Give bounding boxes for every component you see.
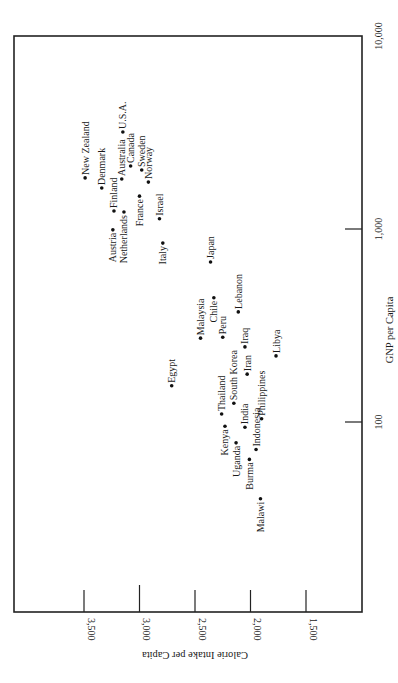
point-label: Uganda	[231, 445, 242, 477]
point-label: Austria	[107, 232, 118, 262]
point-marker	[111, 228, 115, 232]
point-marker	[170, 384, 174, 388]
data-point: Burma	[244, 458, 255, 490]
data-points: New ZealandDenmarkU.S.A.AustraliaCanadaS…	[80, 102, 282, 533]
point-marker	[236, 310, 240, 314]
data-point: Uganda	[231, 441, 242, 477]
gnp-axis-ticks: 1001,00010,000	[345, 22, 384, 429]
point-marker	[209, 260, 213, 264]
point-marker	[120, 177, 124, 181]
point-marker	[138, 194, 142, 198]
point-marker	[248, 458, 252, 462]
data-point: New Zealand	[80, 121, 91, 179]
point-label: Norway	[143, 147, 154, 179]
point-label: Malaysia	[195, 298, 206, 335]
data-point: Lebanon	[233, 274, 244, 314]
point-label: New Zealand	[80, 121, 91, 175]
point-marker	[212, 296, 216, 300]
point-marker	[112, 209, 116, 213]
point-label: Egypt	[166, 359, 177, 383]
point-marker	[220, 412, 224, 416]
data-point: Malaysia	[195, 298, 206, 340]
data-point: India	[239, 403, 250, 429]
data-point: France	[134, 194, 145, 226]
gnp-tick-label: 100	[373, 415, 384, 430]
point-label: Israel	[154, 193, 165, 215]
point-label: Malawi	[255, 502, 266, 533]
data-point: Peru	[217, 316, 228, 339]
data-point: Libya	[271, 329, 282, 358]
data-point: Kenya	[219, 424, 230, 455]
data-point: Finland	[108, 177, 119, 212]
data-point: Israel	[154, 193, 165, 220]
data-point: Italy	[157, 241, 168, 264]
point-label: Italy	[157, 246, 168, 264]
calorie-tick-label: 2,500	[197, 618, 208, 641]
point-marker	[158, 217, 162, 221]
point-marker	[274, 354, 278, 358]
point-label: Peru	[217, 316, 228, 334]
calorie-tick-label: 1,500	[308, 618, 319, 641]
data-point: Egypt	[166, 359, 177, 388]
point-marker	[223, 424, 227, 428]
point-label: Denmark	[96, 148, 107, 185]
data-point: Austria	[107, 228, 118, 262]
point-label: U.S.A.	[117, 102, 128, 130]
data-point: Canada	[125, 132, 136, 167]
point-label: Canada	[125, 132, 136, 163]
gnp-axis-title: GNP per Capita	[384, 296, 395, 363]
data-point: Norway	[143, 147, 154, 184]
data-point: U.S.A.	[117, 102, 128, 134]
data-point: Japan	[205, 236, 216, 264]
point-marker	[83, 176, 87, 180]
point-label: Iraq	[239, 328, 250, 344]
point-label: Burma	[244, 462, 255, 490]
point-label: Kenya	[219, 429, 230, 456]
data-point: South Korea	[228, 349, 239, 405]
point-marker	[259, 497, 263, 501]
point-marker	[232, 401, 236, 405]
data-point: Netherlands	[118, 210, 129, 263]
point-label: France	[134, 199, 145, 227]
point-label: Netherlands	[118, 215, 129, 263]
data-point: Iraq	[239, 328, 250, 349]
point-label: Finland	[108, 177, 119, 208]
point-marker	[243, 345, 247, 349]
data-point: Thailand	[216, 375, 227, 415]
point-marker	[234, 441, 238, 445]
point-label: Thailand	[216, 375, 227, 411]
data-point: Indonesia	[251, 407, 262, 451]
point-marker	[122, 210, 126, 214]
point-label: Japan	[205, 236, 216, 259]
point-marker	[100, 186, 104, 190]
point-marker	[121, 130, 125, 134]
point-label: Iran	[242, 355, 253, 371]
calorie-tick-label: 3,500	[86, 618, 97, 641]
point-label: South Korea	[228, 349, 239, 400]
point-marker	[161, 241, 165, 245]
point-label: India	[239, 403, 250, 424]
gnp-tick-label: 10,000	[373, 22, 384, 50]
point-marker	[129, 164, 133, 168]
calorie-tick-label: 3,000	[141, 618, 152, 641]
point-marker	[254, 448, 258, 452]
gnp-tick-label: 1,000	[373, 218, 384, 241]
point-label: Lebanon	[233, 274, 244, 309]
point-marker	[221, 335, 225, 339]
point-marker	[245, 372, 249, 376]
data-point: Malawi	[255, 497, 266, 532]
point-marker	[147, 180, 151, 184]
plot-border	[14, 36, 362, 612]
plot-frame	[14, 36, 362, 612]
point-marker	[199, 336, 203, 340]
point-marker	[243, 425, 247, 429]
calorie-tick-label: 2,000	[252, 618, 263, 641]
scatter-chart: 3,5003,0002,5002,0001,500 1001,00010,000…	[0, 0, 398, 683]
point-label: Libya	[271, 329, 282, 353]
data-point: Iran	[242, 355, 253, 376]
point-label: Indonesia	[251, 407, 262, 446]
calorie-axis-title: Calorie Intake per Capita	[142, 650, 248, 661]
data-point: Denmark	[96, 148, 107, 190]
